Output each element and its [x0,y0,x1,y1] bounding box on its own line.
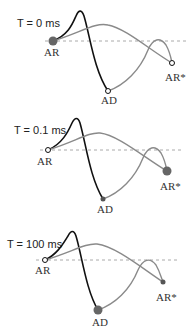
panel-t0: T = 0 ms AR AD AR* [17,11,186,106]
ar-label: AR [35,264,51,276]
grey-upper-curve [53,24,172,63]
ad-label: AD [97,203,113,215]
ar-marker [46,148,51,153]
panel-title: T = 0.1 ms [14,124,67,136]
ar-star-label: AR* [160,180,181,192]
panel-title: T = 0 ms [17,17,60,29]
ar-marker [49,37,58,46]
grey-lower-curve [98,260,163,310]
grey-lower-curve [103,148,167,199]
ar-star-marker [170,61,175,66]
ad-marker [106,89,111,94]
ar-label: AR [44,46,60,58]
black-curve [53,11,108,91]
ar-star-label: AR* [165,71,186,83]
ar-star-marker [161,280,166,285]
ad-label: AD [92,316,108,328]
panel-t0-1: T = 0.1 ms AR AD AR* [14,119,181,216]
grey-upper-curve [48,133,167,171]
ad-marker [94,306,103,315]
figure: T = 0 ms AR AD AR* T = 0.1 ms AR AD AR* … [0,0,191,332]
panel-t100: T = 100 ms AR AD AR* [7,232,177,329]
grey-lower-curve [108,40,172,91]
grey-upper-curve [45,244,163,282]
ad-label: AD [101,94,117,106]
ar-star-label: AR* [156,291,177,303]
ad-marker [101,197,106,202]
panel-title: T = 100 ms [7,238,63,250]
ar-label: AR [37,155,53,167]
ar-star-marker [163,167,172,176]
ar-marker [43,258,48,263]
